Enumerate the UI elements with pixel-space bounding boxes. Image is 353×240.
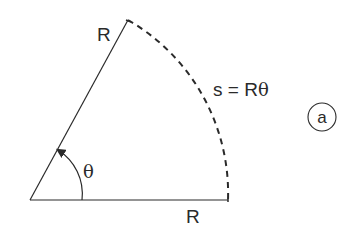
angle-label: θ <box>83 161 94 182</box>
radius-top-line <box>30 20 128 200</box>
arc-formula: s = Rθ <box>213 79 269 100</box>
arc-dashed <box>128 20 228 200</box>
panel-tag-label: a <box>317 108 327 127</box>
angle-arc-arrow <box>58 150 82 200</box>
radius-bottom-label: R <box>186 206 200 227</box>
radius-top-label: R <box>97 24 111 45</box>
sector-diagram: R R θ s = Rθ a <box>0 0 353 240</box>
arc-formula-prefix: s = R <box>213 79 258 100</box>
arc-formula-theta: θ <box>258 79 269 100</box>
